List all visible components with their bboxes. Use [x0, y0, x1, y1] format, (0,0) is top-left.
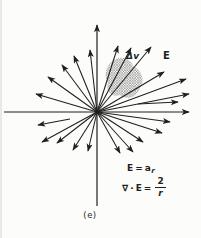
delta-v-label: Δv [126, 51, 139, 61]
figure-caption: (e) [70, 210, 110, 220]
field-vector-label: E [163, 50, 170, 61]
nabla-symbol: ∇ [122, 183, 128, 193]
fraction: 2 r [155, 177, 165, 198]
field-arrows [36, 46, 189, 153]
equation-field-definition: E = a r [127, 162, 166, 174]
fraction-numerator: 2 [155, 177, 165, 188]
eq1-lhs: E [127, 163, 133, 173]
eq2-E: E [136, 183, 142, 193]
eq1-subscript: r [151, 167, 154, 175]
eq1-equals: = [135, 163, 143, 173]
equation-divergence: ∇ · E = 2 r [122, 177, 166, 198]
fraction-denominator: r [158, 188, 162, 198]
eq1-base: a [145, 163, 151, 173]
eq2-equals: = [144, 183, 152, 193]
equation-block: E = a r ∇ · E = 2 r [122, 162, 166, 198]
dot-operator: · [130, 183, 133, 193]
vector-field-svg [0, 0, 201, 238]
figure-panel: Δv E E = a r ∇ · E = 2 r (e) [0, 0, 201, 238]
